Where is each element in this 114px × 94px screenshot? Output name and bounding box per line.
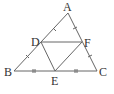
triangle-diagram: A D F B C E: [0, 0, 114, 94]
label-d: D: [31, 36, 40, 48]
label-b: B: [4, 66, 12, 78]
segment-de: [41, 42, 55, 71]
label-f: F: [84, 37, 91, 49]
segment-ef: [55, 42, 82, 71]
label-c: C: [99, 66, 107, 78]
label-e: E: [51, 75, 58, 87]
tick-ad: [53, 28, 56, 31]
label-a: A: [63, 1, 72, 13]
